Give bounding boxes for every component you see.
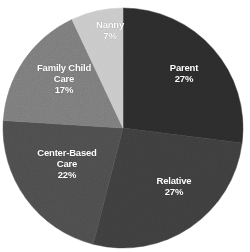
pie-slice-group <box>3 8 243 248</box>
pie-chart: Parent27%Relative27%Center-BasedCare22%F… <box>0 0 250 252</box>
pie-chart-svg <box>0 0 250 252</box>
pie-slice-parent[interactable] <box>123 8 243 143</box>
